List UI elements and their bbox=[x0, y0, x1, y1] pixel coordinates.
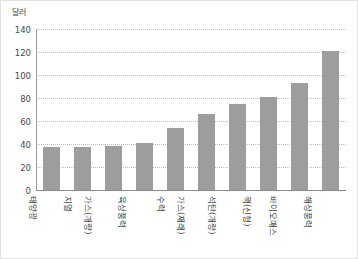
bar-slot bbox=[191, 29, 222, 190]
bar-slot bbox=[284, 29, 315, 190]
x-tick-label: 핵(신형) bbox=[241, 196, 253, 227]
y-tick-label: 100 bbox=[15, 71, 31, 81]
x-tick-label: 가스(재래) bbox=[175, 196, 187, 235]
bar[interactable] bbox=[167, 128, 184, 190]
x-tick-label: 수력 bbox=[156, 196, 168, 212]
y-axis-unit-label: 달러 bbox=[12, 6, 26, 17]
y-tick-label: 140 bbox=[15, 25, 31, 35]
y-tick-label: 40 bbox=[20, 140, 31, 150]
bar-chart: 달러 020406080100120140 태양광지열가스(개량)육상풍력수력가… bbox=[0, 0, 358, 259]
bar-slot bbox=[36, 29, 67, 190]
x-tick-label: 육상풍력 bbox=[117, 196, 129, 228]
bar-slot bbox=[98, 29, 129, 190]
bar[interactable] bbox=[260, 97, 277, 190]
y-tick-label: 60 bbox=[20, 117, 31, 127]
x-tick-label: 석탄(개량) bbox=[206, 196, 218, 235]
x-tick-label: 해상풍력 bbox=[303, 196, 315, 228]
bar[interactable] bbox=[43, 147, 60, 190]
y-tick-label: 120 bbox=[15, 48, 31, 58]
gridline: 0 bbox=[36, 190, 346, 191]
bar[interactable] bbox=[136, 143, 153, 190]
y-tick-label: 20 bbox=[20, 163, 31, 173]
y-tick-label: 80 bbox=[20, 94, 31, 104]
plot-area: 020406080100120140 bbox=[36, 29, 346, 190]
y-tick-label: 0 bbox=[26, 186, 31, 196]
bar-slot bbox=[315, 29, 346, 190]
bar[interactable] bbox=[291, 83, 308, 190]
x-tick-label: 바이오매스 bbox=[268, 196, 280, 236]
bar-slot bbox=[129, 29, 160, 190]
x-label-slot: 해상풍력 bbox=[315, 192, 346, 258]
bar-slot bbox=[222, 29, 253, 190]
bar[interactable] bbox=[74, 147, 91, 190]
x-axis-labels-group: 태양광지열가스(개량)육상풍력수력가스(재래)석탄(개량)핵(신형)바이오매스해… bbox=[36, 192, 346, 258]
x-tick-label: 태양광 bbox=[28, 196, 40, 220]
bar[interactable] bbox=[322, 51, 339, 190]
bar[interactable] bbox=[229, 104, 246, 190]
x-tick-label: 지열 bbox=[63, 196, 75, 212]
bar-slot bbox=[160, 29, 191, 190]
bars-group bbox=[36, 29, 346, 190]
bar[interactable] bbox=[105, 146, 122, 190]
bar-slot bbox=[67, 29, 98, 190]
x-tick-label: 가스(개량) bbox=[82, 196, 94, 235]
bar-slot bbox=[253, 29, 284, 190]
bar[interactable] bbox=[198, 114, 215, 190]
